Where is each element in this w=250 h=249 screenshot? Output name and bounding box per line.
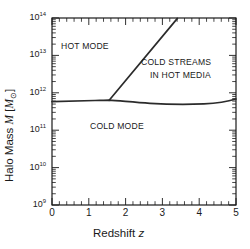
- x-tick-label-0: 0: [42, 208, 62, 218]
- y-tick-label-12: 1012: [14, 88, 46, 97]
- y-tick-label-11: 1011: [14, 125, 46, 134]
- x-tick-label-3: 3: [152, 208, 172, 218]
- x-axis-label-text: Redshift: [93, 227, 138, 239]
- y-axis-units-symbol: M: [3, 99, 15, 109]
- x-axis-label: Redshift z: [93, 228, 144, 240]
- y-axis-units-close: ]: [3, 89, 15, 92]
- y-axis-units-subscript: ⊙: [9, 92, 18, 99]
- annotation-cold-mode: COLD MODE: [90, 122, 144, 131]
- y-tick-label-10: 1010: [14, 163, 46, 172]
- y-axis-label: Halo Mass M [M⊙]: [4, 89, 19, 182]
- y-axis-label-text: Halo Mass: [3, 124, 15, 182]
- y-tick-label-14: 1014: [14, 13, 46, 22]
- annotation-hot-mode: HOT MODE: [61, 42, 109, 51]
- y-tick-label-13: 1013: [14, 50, 46, 59]
- y-axis-label-symbol: M: [3, 115, 15, 125]
- figure-root: 1014 1013 1012 1011 1010 109 0 1 2 3 4 5…: [0, 0, 250, 249]
- x-tick-label-1: 1: [79, 208, 99, 218]
- x-tick-label-5: 5: [226, 208, 246, 218]
- x-tick-label-2: 2: [116, 208, 136, 218]
- annotation-cold-streams-line2: IN HOT MEDIA: [150, 71, 211, 80]
- x-tick-label-4: 4: [189, 208, 209, 218]
- y-axis-units-open: [: [3, 108, 15, 114]
- annotation-cold-streams-line1: COLD STREAMS: [141, 58, 211, 67]
- x-axis-label-symbol: z: [138, 227, 144, 239]
